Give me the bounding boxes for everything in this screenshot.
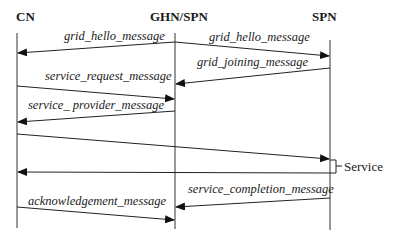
msg-label-1: grid_hello_message [64,30,165,43]
msg-arrow-8 [176,198,330,207]
msg-arrow-1 [18,42,175,53]
msg-label-4: service_request_message [45,70,172,83]
msg-arrow-5 [18,111,175,122]
sequence-diagram: CN GHN/SPN SPN grid_hello_message grid_h… [0,0,396,240]
msg-label-9: acknowledgement_message [28,195,166,208]
actor-spn: SPN [312,9,337,25]
service-note: Service [344,160,383,173]
msg-label-3: grid_joining_message [197,56,308,69]
service-bracket [330,160,336,173]
msg-arrow-9 [17,207,174,220]
msg-label-5: service_ provider_message [28,99,164,112]
msg-arrow-7 [18,172,330,173]
msg-label-2: grid_hello_message [209,31,310,44]
msg-label-8: service_completion_message [188,183,334,196]
msg-arrow-3 [176,68,330,84]
msg-arrow-2 [175,42,329,56]
actor-cn: CN [16,9,35,25]
actor-ghn-spn: GHN/SPN [150,9,208,25]
msg-arrow-6 [17,134,329,159]
